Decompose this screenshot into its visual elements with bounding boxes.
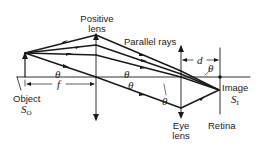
parallel-rays-label: Parallel rays [124,37,176,47]
positive-lens-label: Positive lens [76,14,118,34]
theta-label-5: θ [208,63,213,73]
image-label: Image [222,83,248,93]
image-symbol: SI [231,94,239,108]
distance-label: d [197,55,203,65]
retina-label: Retina [208,121,235,131]
magnifier-diagram: Positive lens Parallel rays θ θ θ θ θ f … [0,0,262,150]
object-symbol: SO [21,104,32,118]
theta-label-2: θ [124,69,129,79]
theta-label-4: θ [162,96,167,106]
eye-lens-label: Eye lens [168,121,194,141]
focal-length-label: f [57,79,60,89]
theta-label-3: θ [128,80,133,90]
